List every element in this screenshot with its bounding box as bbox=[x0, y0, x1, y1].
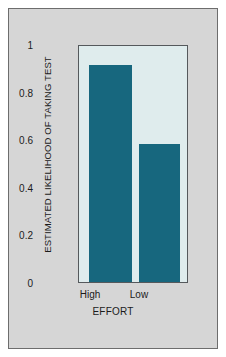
x-axis-title: EFFORT bbox=[9, 306, 217, 317]
y-axis-tick-label: 1 bbox=[0, 40, 33, 51]
x-axis-tick-label-low: Low bbox=[109, 289, 169, 300]
y-axis-tick-label: 0.4 bbox=[0, 182, 33, 193]
figure-container: ESTIMATED LIKELIHOOD OF TAKING TEST 1 0.… bbox=[8, 8, 218, 349]
y-axis-tick-label: 0.6 bbox=[0, 135, 33, 146]
y-axis-tick-label: 0.8 bbox=[0, 87, 33, 98]
bar-high bbox=[89, 65, 132, 282]
y-axis-title: ESTIMATED LIKELIHOOD OF TAKING TEST bbox=[42, 55, 53, 255]
plot-area bbox=[78, 45, 188, 283]
bar-low bbox=[139, 144, 180, 282]
y-axis-tick-label: 0.2 bbox=[0, 230, 33, 241]
y-axis-tick-label: 0 bbox=[0, 278, 33, 289]
